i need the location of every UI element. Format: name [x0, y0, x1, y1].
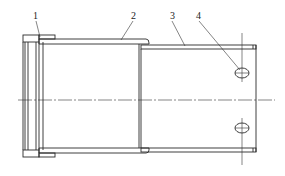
flange-part-1 [23, 35, 55, 157]
callout-3: 3 [170, 10, 175, 21]
leader-lines [36, 21, 240, 70]
callout-2: 2 [131, 10, 136, 21]
pipe-part-3 [141, 45, 256, 152]
callout-4: 4 [196, 10, 201, 21]
section-drawing: 1 2 3 4 [0, 0, 285, 176]
pipe-part-2 [39, 39, 149, 153]
callout-1: 1 [33, 10, 38, 21]
holes-part-4 [235, 33, 249, 165]
